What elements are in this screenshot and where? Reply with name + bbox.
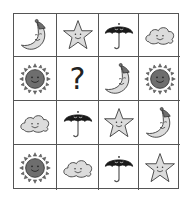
grid-cell-r1-c1: [14, 14, 57, 57]
star-icon: [143, 151, 177, 185]
cloud-icon: [18, 106, 52, 140]
sun-icon: [18, 62, 52, 96]
cloud-icon: [61, 151, 95, 185]
grid-cell-r3-c2: [57, 101, 99, 145]
cloud-icon: [143, 18, 177, 52]
umbrella-icon: [102, 151, 136, 185]
umbrella-icon: [61, 106, 95, 140]
grid-cell-r1-c2: [57, 14, 99, 57]
star-icon: [61, 18, 95, 52]
question-mark: ?: [70, 64, 86, 94]
moon-icon: [143, 106, 177, 140]
grid-cell-r2-c1: [14, 57, 57, 101]
sun-icon: [143, 62, 177, 96]
grid-cell-r4-c2: [57, 145, 99, 190]
grid-cell-r2-c2[interactable]: ?: [57, 57, 99, 101]
grid-cell-r1-c3: [99, 14, 139, 57]
grid-cell-r3-c3: [99, 101, 139, 145]
grid-cell-r1-c4: [139, 14, 180, 57]
grid-cell-r4-c4: [139, 145, 180, 190]
grid-cell-r3-c4: [139, 101, 180, 145]
grid-cell-r4-c1: [14, 145, 57, 190]
moon-icon: [102, 62, 136, 96]
umbrella-icon: [102, 18, 136, 52]
star-icon: [102, 106, 136, 140]
grid-cell-r2-c4: [139, 57, 180, 101]
grid-cell-r2-c3: [99, 57, 139, 101]
grid-cell-r3-c1: [14, 101, 57, 145]
moon-icon: [18, 18, 52, 52]
sun-icon: [18, 151, 52, 185]
puzzle-grid: ?: [13, 13, 179, 189]
grid-cell-r4-c3: [99, 145, 139, 190]
